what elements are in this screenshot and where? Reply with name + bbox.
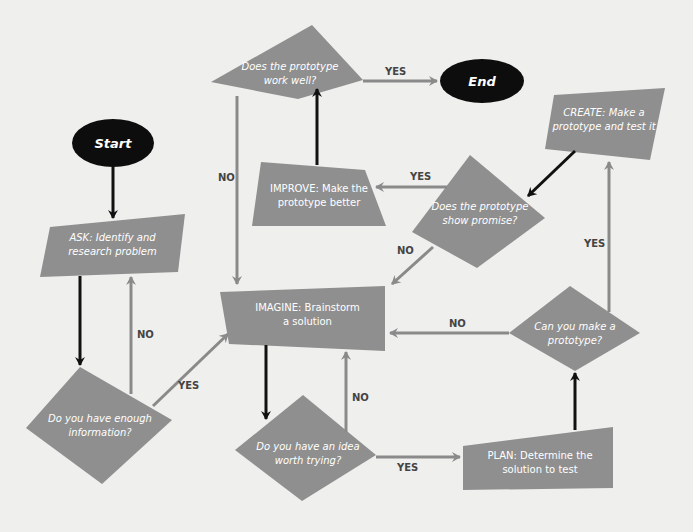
ask-line2: research problem [68, 245, 156, 259]
works-well-text: Does the prototype work well? [222, 58, 358, 90]
improve-line2: prototype better [278, 196, 361, 210]
works-well-line2: work well? [264, 74, 317, 88]
enough-info-line1: Do you have enough [48, 412, 152, 426]
arrow-create-to-promise [528, 151, 575, 196]
create-line2: prototype and test it [552, 120, 655, 134]
enough-info-text: Do you have enough information? [35, 410, 165, 442]
show-promise-line1: Does the prototype [432, 200, 529, 214]
label-enough-yes: YES [178, 380, 199, 391]
idea-worth-line1: Do you have an idea [256, 440, 359, 454]
idea-worth-line2: worth trying? [275, 454, 342, 468]
end-label: End [440, 68, 524, 94]
idea-worth-text: Do you have an idea worth trying? [245, 438, 371, 470]
works-well-line1: Does the prototype [242, 60, 339, 74]
label-promise-no: NO [397, 245, 414, 256]
improve-line1: IMPROVE: Make the [270, 182, 368, 196]
label-idea-yes: YES [397, 462, 418, 473]
engineering-design-flowchart: Start End Does the prototype work well? … [0, 0, 693, 532]
arrow-enough-yes-to-imagine [153, 334, 228, 406]
start-label: Start [72, 130, 154, 156]
create-text: CREATE: Make a prototype and test it [548, 104, 660, 136]
plan-line2: solution to test [502, 463, 577, 477]
plan-line1: PLAN: Determine the [487, 449, 592, 463]
imagine-line2: a solution [283, 315, 332, 329]
label-enough-no: NO [137, 329, 154, 340]
label-canmake-no: NO [449, 318, 466, 329]
label-canmake-yes: YES [584, 238, 605, 249]
enough-info-line2: information? [68, 426, 131, 440]
imagine-text: IMAGINE: Brainstorm a solution [235, 298, 380, 332]
label-works-no: NO [218, 172, 235, 183]
ask-text: ASK: Identify and research problem [45, 228, 180, 262]
show-promise-text: Does the prototype show promise? [420, 198, 540, 230]
create-line1: CREATE: Make a [563, 106, 644, 120]
imagine-line1: IMAGINE: Brainstorm [255, 301, 359, 315]
plan-text: PLAN: Determine the solution to test [470, 446, 610, 480]
can-make-line2: prototype? [548, 334, 602, 348]
ask-line1: ASK: Identify and [69, 231, 155, 245]
label-promise-yes: YES [410, 171, 431, 182]
label-idea-no: NO [352, 392, 369, 403]
improve-text: IMPROVE: Make the prototype better [258, 180, 380, 212]
show-promise-line2: show promise? [443, 214, 518, 228]
label-works-yes: YES [385, 66, 406, 77]
can-make-text: Can you make a prototype? [520, 318, 630, 350]
can-make-line1: Can you make a [534, 320, 615, 334]
